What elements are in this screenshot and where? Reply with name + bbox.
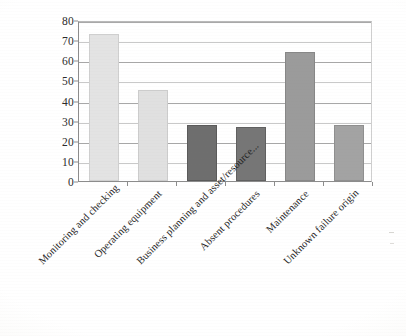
y-tick-mark-60 (74, 61, 78, 62)
bar-chart: 01020304050607080 Monitoring and checkin… (0, 0, 406, 336)
y-axis: 01020304050607080 (44, 21, 74, 182)
gridline-10 (79, 163, 371, 164)
gridline-40 (79, 103, 371, 104)
bar-5 (285, 52, 315, 181)
y-tick-mark-40 (74, 101, 78, 102)
gridline-80 (79, 22, 371, 23)
bar-2 (138, 90, 168, 181)
y-tick-mark-10 (74, 161, 78, 162)
y-tick-label-60: 60 (62, 55, 74, 67)
scan-artifact (389, 232, 394, 233)
y-tick-label-10: 10 (62, 156, 74, 168)
x-tick-mark-5 (323, 182, 324, 186)
plot-frame (78, 21, 372, 182)
y-tick-mark-30 (74, 121, 78, 122)
y-tick-mark-0 (74, 182, 78, 183)
y-tick-label-20: 20 (62, 136, 74, 148)
y-tick-mark-70 (74, 41, 78, 42)
y-tick-mark-80 (74, 21, 78, 22)
y-tick-mark-20 (74, 141, 78, 142)
y-tick-mark-50 (74, 81, 78, 82)
x-tick-mark-4 (274, 182, 275, 186)
y-tick-label-80: 80 (62, 15, 74, 27)
y-tick-label-30: 30 (62, 116, 74, 128)
gridline-30 (79, 123, 371, 124)
scan-artifact (390, 243, 394, 244)
gridline-20 (79, 143, 371, 144)
plot-area (78, 21, 372, 182)
bar-3 (187, 125, 217, 181)
bar-6 (334, 125, 364, 181)
y-tick-label-50: 50 (62, 75, 74, 87)
x-tick-mark-1 (127, 182, 128, 186)
gridline-60 (79, 62, 371, 63)
x-tick-mark-2 (176, 182, 177, 186)
gridline-70 (79, 42, 371, 43)
x-tick-mark-6 (372, 182, 373, 186)
gridline-50 (79, 82, 371, 83)
y-tick-label-70: 70 (62, 35, 74, 47)
bar-1 (89, 34, 119, 181)
y-tick-label-40: 40 (62, 96, 74, 108)
